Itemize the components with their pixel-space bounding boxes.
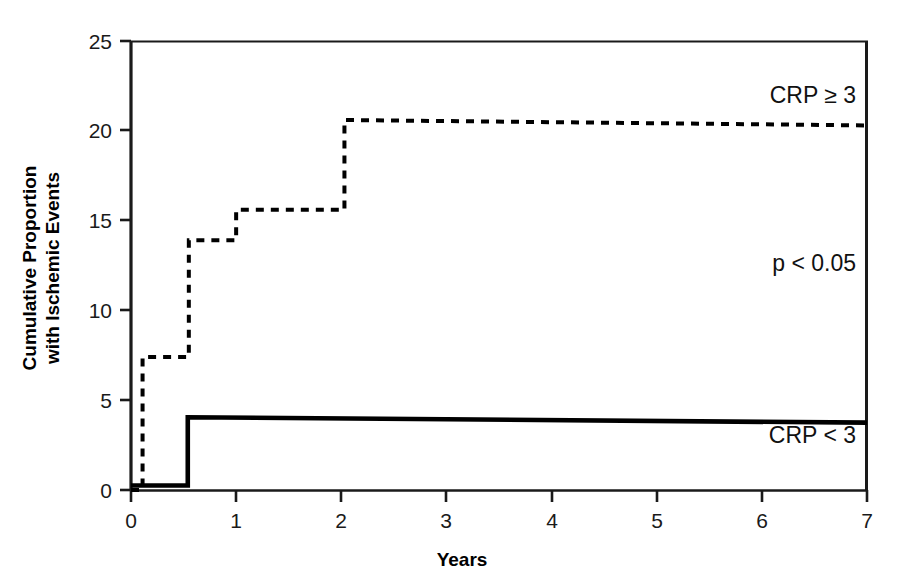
pvalue-annotation: p < 0.05 [772,250,856,276]
x-tick-label-1: 1 [230,509,242,532]
data-series-group [131,120,867,490]
plot-annotations: CRP ≥ 3 p < 0.05 CRP < 3 [769,82,856,448]
y-tick-label-10: 10 [89,299,112,322]
crp-low-series-label: CRP < 3 [769,422,856,448]
y-tick-label-25: 25 [89,30,112,53]
y-tick-label-5: 5 [100,389,112,412]
x-tick-labels: 0 1 2 3 4 5 6 7 [125,509,873,532]
x-tick-label-0: 0 [125,509,137,532]
series-line-crp-high [131,120,867,490]
x-tick-label-3: 3 [440,509,452,532]
x-axis-ticks [131,490,867,502]
x-tick-label-2: 2 [335,509,347,532]
y-axis-title-line1: Cumulative Proportion [19,166,40,371]
y-axis-title: Cumulative Proportion with Ischemic Even… [19,166,63,371]
chart-canvas: 25 20 15 10 5 0 0 1 2 3 4 5 6 7 CRP ≥ 3 … [0,0,898,581]
chart-figure: 25 20 15 10 5 0 0 1 2 3 4 5 6 7 CRP ≥ 3 … [0,0,898,581]
y-tick-label-0: 0 [100,479,112,502]
y-axis-ticks [120,41,131,490]
x-axis-title: Years [437,549,488,570]
series-line-crp-low [131,417,867,485]
x-tick-label-4: 4 [546,509,558,532]
y-tick-label-20: 20 [89,119,112,142]
x-tick-label-6: 6 [756,509,768,532]
crp-high-series-label: CRP ≥ 3 [770,82,856,108]
x-tick-label-5: 5 [651,509,663,532]
y-axis-title-line2: with Ischemic Events [42,172,63,365]
y-tick-label-15: 15 [89,209,112,232]
x-tick-label-7: 7 [861,509,873,532]
y-tick-labels: 25 20 15 10 5 0 [89,30,112,502]
